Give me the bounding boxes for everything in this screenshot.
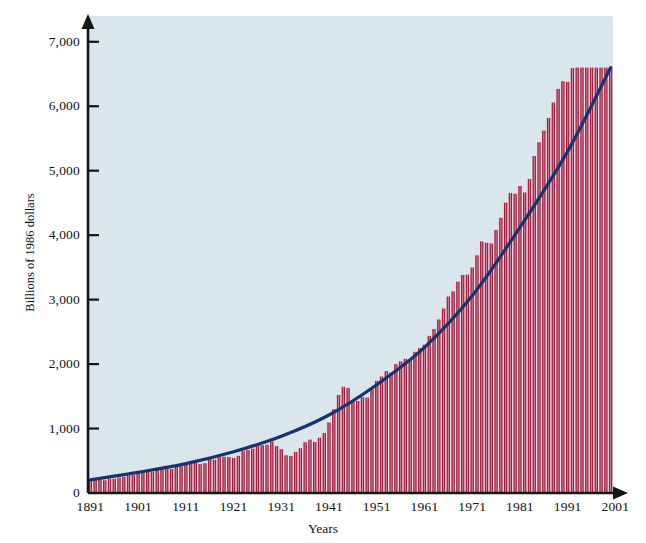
chart-figure: 01,0002,0003,0004,0005,0006,0007,000 189… (0, 0, 646, 543)
x-tick-label: 2001 (585, 500, 645, 514)
x-axis-title: Years (0, 521, 646, 537)
y-axis-title: Billions of 1986 dollars (23, 153, 38, 353)
x-axis-tick-labels: 1891190119111921193119411951196119711981… (0, 0, 646, 543)
